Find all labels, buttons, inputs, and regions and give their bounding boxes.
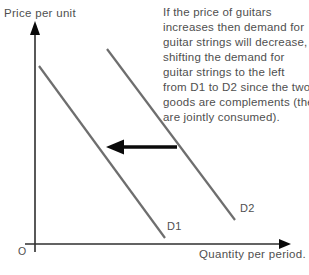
y-axis-label: Price per unit xyxy=(4,8,76,20)
annotation-line: are jointly consumed). xyxy=(163,110,309,125)
shift-arrowhead-icon xyxy=(106,140,124,155)
annotation-line: guitar strings to the left xyxy=(163,65,309,80)
annotation-line: guitar strings will decrease, xyxy=(163,35,309,50)
annotation-line: shifting the demand for xyxy=(163,50,309,65)
annotation-line: If the price of guitars xyxy=(163,5,309,20)
y-axis-arrowhead-icon xyxy=(30,21,40,35)
origin-label: O xyxy=(18,246,26,257)
demand-shift-diagram: Price per unit Quantity per period. O D1… xyxy=(0,0,309,275)
x-axis-label: Quantity per period. xyxy=(199,249,306,261)
annotation-text: If the price of guitars increases then d… xyxy=(163,5,309,125)
annotation-line: goods are complements (they xyxy=(163,95,309,110)
curve-label-d2: D2 xyxy=(240,203,255,214)
annotation-line: increases then demand for xyxy=(163,20,309,35)
demand-curve-d1 xyxy=(39,66,165,238)
curve-label-d1: D1 xyxy=(167,221,182,232)
annotation-line: from D1 to D2 since the two xyxy=(163,80,309,95)
